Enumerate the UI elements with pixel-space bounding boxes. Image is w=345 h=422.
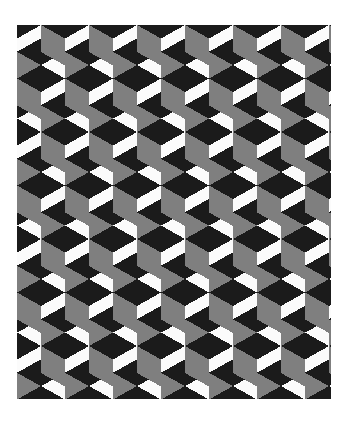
cube-grid <box>17 25 331 399</box>
figure-canvas <box>0 0 345 422</box>
tumbling-blocks-svg <box>17 25 331 399</box>
tumbling-blocks-pattern <box>17 25 331 399</box>
